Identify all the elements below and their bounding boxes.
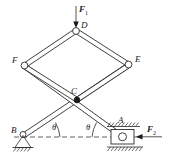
- member-d-e: [74, 28, 130, 66]
- joint-f: [21, 62, 28, 69]
- label-force-f1-symbol: F: [78, 4, 85, 14]
- ground-hatch-b: [14, 148, 31, 152]
- label-joint-d: D: [80, 20, 88, 30]
- guide-hatch-bottom-a: [108, 147, 143, 151]
- label-theta-right: θ: [86, 122, 90, 132]
- member-d-f: [24, 28, 79, 67]
- label-force-f2: F 2: [146, 124, 156, 136]
- label-theta-left: θ: [52, 122, 56, 132]
- member-f-c: [23, 64, 78, 101]
- label-force-f2-subscript: 2: [153, 130, 156, 136]
- label-joint-b: B: [11, 125, 17, 135]
- force-f1-arrow: [73, 6, 79, 28]
- force-f2-arrow: [136, 134, 162, 140]
- label-joint-f: F: [11, 55, 18, 65]
- roller-wheel-a: [119, 133, 127, 141]
- label-joint-c: C: [71, 86, 78, 96]
- joint-e: [125, 61, 132, 68]
- joint-c: [74, 97, 80, 103]
- label-force-f1-subscript: 1: [85, 10, 88, 16]
- label-force-f1: F 1: [78, 4, 88, 16]
- joint-b: [20, 132, 26, 138]
- label-force-f2-symbol: F: [146, 124, 153, 134]
- angle-theta-right: [92, 123, 97, 138]
- figure-canvas: D F E C B A θ θ F 1 F 2: [0, 0, 170, 162]
- label-joint-e: E: [134, 54, 141, 64]
- mechanics-figure: D F E C B A θ θ F 1 F 2: [0, 0, 170, 162]
- label-joint-a: A: [117, 115, 124, 125]
- joint-d: [73, 28, 80, 35]
- member-e-c: [77, 63, 131, 101]
